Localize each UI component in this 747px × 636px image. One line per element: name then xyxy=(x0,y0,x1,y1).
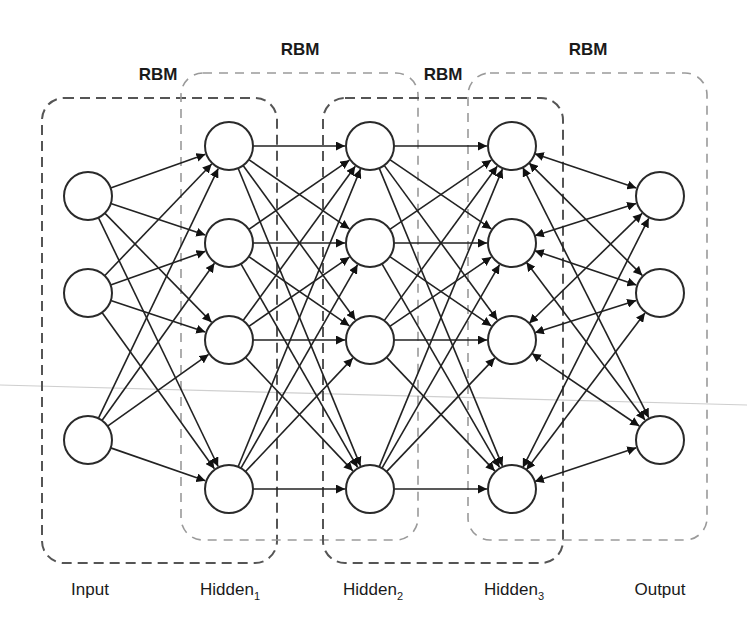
layer-labels: InputHidden1Hidden2Hidden3Output xyxy=(71,580,686,602)
edge-input-hidden1 xyxy=(111,154,206,188)
edge-hidden3-output xyxy=(526,313,644,470)
edge-input-hidden1 xyxy=(111,251,206,285)
rbm-labels: RBMRBMRBMRBM xyxy=(139,40,608,84)
rbm-label-2: RBM xyxy=(281,40,320,59)
edge-hidden3-output xyxy=(529,213,642,323)
output-label: Output xyxy=(634,580,685,599)
hidden1-node-1 xyxy=(205,122,253,170)
scan-artifact-line xyxy=(0,385,747,405)
hidden2-node-4 xyxy=(346,465,394,513)
hidden3-node-2 xyxy=(488,219,536,267)
hidden1-label: Hidden1 xyxy=(200,580,260,602)
edge-input-hidden1 xyxy=(105,164,212,276)
output-node-2 xyxy=(636,269,684,317)
hidden2-node-1 xyxy=(346,122,394,170)
edge-input-hidden1 xyxy=(111,301,206,333)
rbm-label-4: RBM xyxy=(569,40,608,59)
neurons xyxy=(64,122,684,513)
edge-hidden3-output xyxy=(526,262,645,420)
rbm-label-3: RBM xyxy=(424,65,463,84)
hidden1-node-3 xyxy=(205,316,253,364)
output-node-1 xyxy=(636,172,684,220)
dbn-diagram: RBMRBMRBMRBM InputHidden1Hidden2Hidden3O… xyxy=(0,0,747,636)
edge-hidden3-output xyxy=(523,218,649,467)
hidden2-node-3 xyxy=(346,316,394,364)
edge-input-hidden1 xyxy=(111,448,206,481)
edge-hidden3-output xyxy=(535,301,636,333)
hidden3-subscript: 3 xyxy=(538,590,544,602)
output-node-3 xyxy=(636,416,684,464)
input-node-1 xyxy=(64,172,112,220)
edge-input-hidden1 xyxy=(102,263,214,420)
hidden2-node-2 xyxy=(346,219,394,267)
rbm-label-1: RBM xyxy=(139,65,178,84)
hidden2-subscript: 2 xyxy=(397,590,403,602)
input-label: Input xyxy=(71,580,109,599)
hidden3-node-4 xyxy=(488,465,536,513)
hidden3-node-3 xyxy=(488,316,536,364)
hidden1-node-4 xyxy=(205,465,253,513)
edge-hidden3-output xyxy=(535,448,636,482)
hidden3-node-1 xyxy=(488,122,536,170)
input-node-3 xyxy=(64,416,112,464)
hidden3-label: Hidden3 xyxy=(484,580,544,602)
hidden1-subscript: 1 xyxy=(254,590,260,602)
hidden2-label: Hidden2 xyxy=(343,580,403,602)
edge-hidden3-output xyxy=(535,204,636,236)
hidden1-node-2 xyxy=(205,219,253,267)
input-node-2 xyxy=(64,269,112,317)
